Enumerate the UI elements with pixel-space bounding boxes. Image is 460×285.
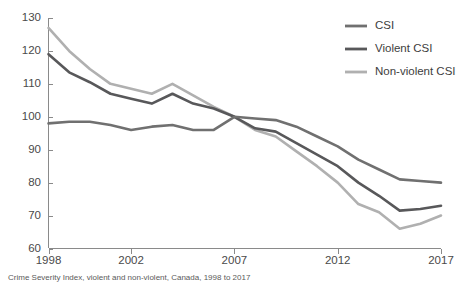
y-axis-tick-label: 130 <box>22 11 41 23</box>
y-axis-tick-label: 90 <box>28 143 41 155</box>
chart-container: 60708090100110120130 1998200220072012201… <box>0 0 460 285</box>
y-axis-tick-label: 110 <box>23 77 41 89</box>
x-axis-tick-label: 2012 <box>325 254 351 266</box>
y-axis-tick-label: 80 <box>28 176 41 188</box>
series-line-violent-csi <box>49 54 442 210</box>
legend-item[interactable]: CSI <box>345 19 394 31</box>
x-axis-tick-label: 2007 <box>222 254 248 266</box>
x-axis-tick-label: 2017 <box>428 254 454 266</box>
legend-label: Non-violent CSI <box>375 65 456 77</box>
series-line-csi <box>49 117 442 183</box>
legend-item[interactable]: Non-violent CSI <box>345 65 456 77</box>
y-axis-tick-label: 60 <box>28 242 41 254</box>
x-axis-tick-labels: 19982002200720122017 <box>36 254 454 266</box>
x-axis-tick-label: 1998 <box>36 254 62 266</box>
y-axis-tick-label: 100 <box>22 110 41 122</box>
y-axis-tick-label: 70 <box>28 209 41 221</box>
x-axis-tick-label: 2002 <box>118 254 144 266</box>
legend-label: CSI <box>375 19 394 31</box>
y-axis-tick-labels: 60708090100110120130 <box>22 11 41 254</box>
legend-label: Violent CSI <box>375 42 432 54</box>
chart-footnote: Crime Severity Index, violent and non-vi… <box>8 273 251 282</box>
data-series-group <box>49 28 442 229</box>
footnote-label: Crime Severity Index, violent and non-vi… <box>8 273 251 282</box>
legend-item[interactable]: Violent CSI <box>345 42 432 54</box>
y-axis-tick-label: 120 <box>22 44 41 56</box>
line-chart: 60708090100110120130 1998200220072012201… <box>0 0 460 285</box>
chart-legend: CSIViolent CSINon-violent CSI <box>345 19 456 77</box>
